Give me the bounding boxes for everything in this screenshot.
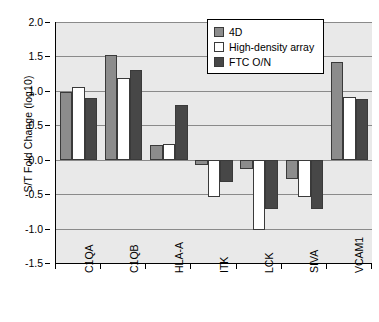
x-axis-tick-mark bbox=[190, 264, 191, 269]
x-axis-tick-label: C1QA bbox=[83, 244, 95, 273]
bar-chart: S/T Fold Change (log10) 2.01.51.00.50.0-… bbox=[0, 0, 379, 322]
y-axis-tick-label: 2.0 bbox=[28, 16, 43, 28]
bar bbox=[265, 160, 278, 209]
bar bbox=[286, 160, 299, 179]
x-axis-tick-mark bbox=[55, 264, 56, 269]
x-axis-tick-label: HLA-A bbox=[173, 242, 185, 273]
x-axis-tick-mark bbox=[236, 264, 237, 269]
bar bbox=[298, 160, 311, 197]
bar bbox=[240, 160, 253, 169]
y-axis-tick-mark bbox=[45, 91, 50, 92]
bar bbox=[253, 160, 266, 230]
bar bbox=[343, 97, 356, 160]
y-axis-tick-mark bbox=[45, 22, 50, 23]
x-axis-tick-mark bbox=[371, 264, 372, 269]
y-axis-tick-mark bbox=[45, 125, 50, 126]
y-axis-tick-mark bbox=[45, 194, 50, 195]
legend-label: 4D bbox=[229, 26, 242, 38]
legend-swatch-icon bbox=[214, 42, 224, 52]
x-axis-tick-label: SIVA bbox=[308, 250, 320, 273]
x-axis-tick-label: LCK bbox=[263, 253, 275, 273]
x-axis-tick-labels: C1QAC1QBHLA-AITKLCKSIVAVCAM1 bbox=[55, 264, 371, 322]
bar bbox=[175, 105, 188, 160]
bar bbox=[117, 78, 130, 159]
legend-item: 4D bbox=[214, 24, 314, 39]
bar bbox=[208, 160, 221, 197]
y-axis-tick-label: -0.5 bbox=[25, 188, 43, 200]
legend-item: FTC O/N bbox=[214, 54, 314, 69]
bar bbox=[220, 160, 233, 182]
legend-label: FTC O/N bbox=[229, 56, 271, 68]
x-axis-tick-mark bbox=[326, 264, 327, 269]
y-axis-tick-label: 1.5 bbox=[28, 50, 43, 62]
y-axis-tick-mark bbox=[45, 263, 50, 264]
x-axis-tick-label: VCAM1 bbox=[353, 237, 365, 273]
chart-legend: 4DHigh-density arrayFTC O/N bbox=[207, 19, 324, 74]
legend-item: High-density array bbox=[214, 39, 314, 54]
bar bbox=[130, 70, 143, 160]
bar bbox=[356, 99, 369, 160]
bar bbox=[105, 55, 118, 160]
y-axis-tick-mark bbox=[45, 229, 50, 230]
legend-label: High-density array bbox=[229, 41, 314, 53]
y-axis-tick-mark bbox=[45, 56, 50, 57]
y-axis-tick-label: -1.5 bbox=[25, 257, 43, 269]
y-axis-tick-label: 0.0 bbox=[28, 154, 43, 166]
legend-swatch-icon bbox=[214, 27, 224, 37]
bar bbox=[195, 160, 208, 165]
bar bbox=[163, 144, 176, 160]
x-axis-tick-mark bbox=[100, 264, 101, 269]
legend-swatch-icon bbox=[214, 57, 224, 67]
bar bbox=[331, 62, 344, 160]
y-axis-tick-labels: 2.01.51.00.50.0-0.5-1.0-1.5 bbox=[0, 0, 52, 322]
bar bbox=[72, 87, 85, 159]
bar bbox=[311, 160, 324, 210]
y-axis-tick-label: -1.0 bbox=[25, 223, 43, 235]
x-axis-tick-mark bbox=[281, 264, 282, 269]
bar bbox=[85, 98, 98, 159]
x-axis-tick-label: C1QB bbox=[128, 244, 140, 273]
y-axis-tick-label: 0.5 bbox=[28, 119, 43, 131]
bar bbox=[60, 92, 73, 159]
y-axis-tick-mark bbox=[45, 160, 50, 161]
bar bbox=[150, 145, 163, 160]
x-axis-tick-label: ITK bbox=[218, 257, 230, 273]
y-axis-tick-label: 1.0 bbox=[28, 85, 43, 97]
x-axis-tick-mark bbox=[145, 264, 146, 269]
